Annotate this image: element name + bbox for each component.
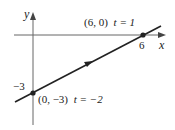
y-tick-label: −3	[13, 80, 25, 92]
point-6-0	[140, 32, 145, 37]
point-a-coords: (6, 0) t = 1	[84, 16, 135, 29]
point-a-coords-text: (6, 0)	[84, 16, 108, 29]
x-tick-label: 6	[139, 39, 145, 51]
y-axis-arrow-icon	[30, 12, 36, 20]
point-b-coords-text: (0, −3)	[38, 93, 68, 106]
x-axis-label: x	[158, 38, 165, 52]
point-a-param: t = 1	[114, 16, 135, 28]
point-b-coords: (0, −3) t = −2	[38, 93, 103, 106]
parametric-line-diagram: y x 6 −3 (6, 0) t = 1 (0, −3) t = −2	[0, 0, 175, 130]
y-axis-label: y	[23, 7, 30, 21]
point-0-neg3	[30, 90, 35, 95]
point-b-param: t = −2	[74, 93, 103, 105]
